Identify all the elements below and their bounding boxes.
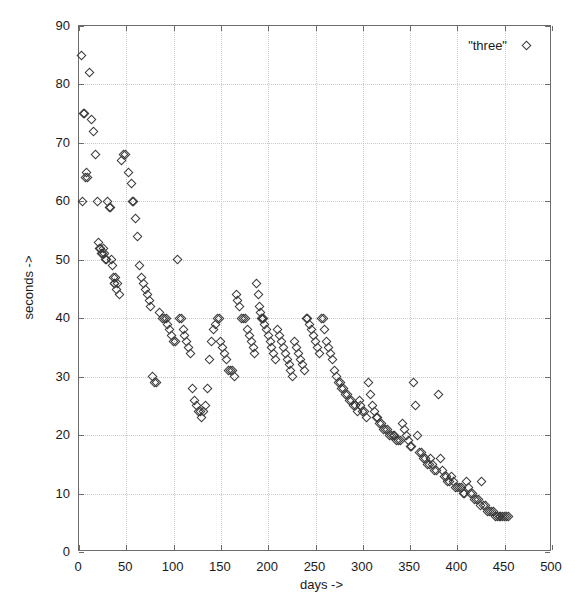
- x-tick-mark: [316, 545, 317, 550]
- gridline-horizontal: [79, 494, 550, 495]
- y-tick-mark: [545, 260, 550, 261]
- y-tick-label: 10: [30, 487, 70, 500]
- gridline-vertical: [221, 26, 222, 550]
- gridline-vertical: [457, 26, 458, 550]
- data-point: [235, 302, 245, 312]
- data-point: [365, 389, 375, 399]
- legend: "three": [468, 38, 530, 53]
- data-point: [77, 50, 87, 60]
- data-point: [254, 290, 264, 300]
- data-point: [411, 401, 421, 411]
- gridline-horizontal: [79, 201, 550, 202]
- y-tick-mark: [545, 318, 550, 319]
- y-tick-label: 0: [30, 545, 70, 558]
- x-tick-mark: [363, 545, 364, 550]
- y-tick-mark: [79, 552, 84, 553]
- y-tick-mark: [545, 377, 550, 378]
- data-point: [434, 389, 444, 399]
- y-tick-label: 50: [30, 253, 70, 266]
- data-point: [123, 167, 133, 177]
- gridline-vertical: [363, 26, 364, 550]
- data-point: [78, 196, 88, 206]
- x-tick-mark: [268, 26, 269, 31]
- x-tick-mark: [363, 26, 364, 31]
- x-tick-mark: [79, 545, 80, 550]
- y-tick-mark: [79, 494, 84, 495]
- gridline-horizontal: [79, 435, 550, 436]
- x-tick-mark: [174, 26, 175, 31]
- data-point: [133, 231, 143, 241]
- y-tick-mark: [79, 26, 84, 27]
- y-tick-mark: [79, 260, 84, 261]
- y-tick-label: 60: [30, 194, 70, 207]
- data-point: [126, 179, 136, 189]
- y-tick-mark: [79, 84, 84, 85]
- y-tick-mark: [545, 143, 550, 144]
- data-point: [320, 325, 330, 335]
- x-tick-mark: [221, 545, 222, 550]
- y-tick-label: 20: [30, 428, 70, 441]
- y-tick-label: 30: [30, 370, 70, 383]
- data-point: [90, 150, 100, 160]
- legend-label-three: "three": [468, 38, 507, 53]
- y-tick-mark: [79, 143, 84, 144]
- data-point: [146, 302, 156, 312]
- x-tick-mark: [316, 26, 317, 31]
- data-point: [93, 196, 103, 206]
- x-tick-mark: [457, 545, 458, 550]
- x-tick-mark: [505, 545, 506, 550]
- x-tick-mark: [268, 545, 269, 550]
- data-point: [413, 430, 423, 440]
- y-tick-mark: [545, 552, 550, 553]
- gridline-vertical: [410, 26, 411, 550]
- y-tick-mark: [545, 84, 550, 85]
- x-tick-mark: [126, 545, 127, 550]
- gridline-vertical: [316, 26, 317, 550]
- y-tick-mark: [79, 377, 84, 378]
- data-point: [205, 354, 215, 364]
- plot-area: "three": [78, 25, 551, 551]
- x-tick-mark: [410, 26, 411, 31]
- gridline-vertical: [505, 26, 506, 550]
- legend-marker-diamond-icon: [522, 41, 532, 51]
- x-tick-mark: [126, 26, 127, 31]
- gridline-horizontal: [79, 143, 550, 144]
- x-axis-title: days ->: [0, 577, 575, 592]
- y-tick-mark: [545, 26, 550, 27]
- y-tick-mark: [545, 201, 550, 202]
- data-point: [135, 261, 145, 271]
- scatter-plot-figure: "three" 050100150200250300350400450500 0…: [0, 0, 575, 605]
- gridline-vertical: [174, 26, 175, 550]
- data-point: [86, 115, 96, 125]
- data-point: [252, 278, 262, 288]
- data-point: [188, 383, 198, 393]
- gridline-horizontal: [79, 260, 550, 261]
- gridline-vertical: [268, 26, 269, 550]
- x-tick-mark: [221, 26, 222, 31]
- data-point: [88, 126, 98, 136]
- x-tick-label: 500: [521, 560, 575, 573]
- y-tick-label: 70: [30, 136, 70, 149]
- data-point: [84, 68, 94, 78]
- y-tick-label: 40: [30, 311, 70, 324]
- y-tick-mark: [545, 494, 550, 495]
- x-tick-mark: [552, 545, 553, 550]
- gridline-vertical: [126, 26, 127, 550]
- x-axis-title-text: days ->: [300, 577, 343, 592]
- x-tick-mark: [505, 26, 506, 31]
- data-point: [288, 372, 298, 382]
- y-tick-mark: [545, 435, 550, 436]
- data-point: [115, 290, 125, 300]
- data-point: [364, 378, 374, 388]
- gridline-horizontal: [79, 84, 550, 85]
- x-tick-mark: [552, 26, 553, 31]
- data-point: [203, 383, 213, 393]
- y-tick-label: 80: [30, 77, 70, 90]
- x-tick-mark: [174, 545, 175, 550]
- data-point: [250, 348, 260, 358]
- y-tick-mark: [79, 435, 84, 436]
- y-axis-title: seconds ->: [21, 238, 36, 338]
- y-tick-mark: [79, 318, 84, 319]
- x-tick-mark: [457, 26, 458, 31]
- y-tick-label: 90: [30, 19, 70, 32]
